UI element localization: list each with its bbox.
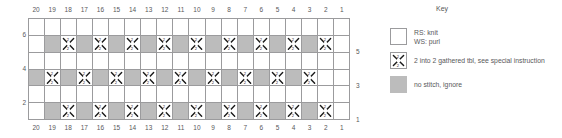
chart-cell-r1-c20 (29, 103, 45, 120)
column-number-bottom-15: 15 (108, 122, 124, 134)
row-number-left-6: 6 (4, 30, 26, 40)
chart-cell-r3-c9: 22 (206, 70, 222, 87)
chart-cell-r1-c18: 22 (61, 103, 77, 120)
column-number-top-18: 18 (60, 4, 76, 16)
chart-cell-r3-c4 (286, 70, 302, 87)
column-headers-bottom: 2019181716151413121110987654321 (28, 122, 350, 134)
column-number-bottom-20: 20 (28, 122, 44, 134)
column-number-top-11: 11 (173, 4, 189, 16)
chart-cell-r6-c3 (302, 19, 318, 36)
svg-text:2: 2 (163, 113, 166, 118)
row-number-left-2: 2 (4, 98, 26, 108)
column-number-top-2: 2 (318, 4, 334, 16)
stitch-chart: 2019181716151413121110987654321 642 2222… (0, 0, 380, 138)
chart-cell-r6-c15 (109, 19, 125, 36)
chart-cell-r4-c6 (254, 53, 270, 70)
svg-text:2: 2 (131, 113, 134, 118)
chart-cell-r2-c6 (254, 86, 270, 103)
svg-text:2: 2 (397, 63, 400, 68)
column-number-bottom-12: 12 (157, 122, 173, 134)
svg-text:2: 2 (259, 113, 262, 118)
chart-cell-r1-c2: 22 (318, 103, 334, 120)
column-number-bottom-14: 14 (125, 122, 141, 134)
chart-cell-r3-c20 (29, 70, 45, 87)
svg-text:2: 2 (259, 46, 262, 51)
chart-cell-r4-c2 (318, 53, 334, 70)
chart-cell-r3-c3: 22 (302, 70, 318, 87)
column-number-top-10: 10 (189, 4, 205, 16)
key-entry-nostitch: no stitch, ignore (390, 76, 462, 93)
key-entry-gathered: 22 2 into 2 gathered tbl, see special in… (390, 52, 545, 69)
chart-cell-r1-c9 (206, 103, 222, 120)
chart-cell-r6-c9 (206, 19, 222, 36)
svg-text:2: 2 (308, 71, 311, 76)
chart-cell-r4-c10 (189, 53, 205, 70)
chart-cell-r3-c19: 22 (45, 70, 61, 87)
svg-text:2: 2 (179, 80, 182, 85)
row-number-right-1: 1 (352, 115, 378, 125)
row-number-right-5: 5 (352, 47, 378, 57)
chart-cell-r4-c17 (77, 53, 93, 70)
chart-cell-r5-c2: 22 (318, 36, 334, 53)
column-headers-top: 2019181716151413121110987654321 (28, 4, 350, 16)
svg-text:2: 2 (259, 104, 262, 109)
chart-cell-r4-c1 (334, 53, 350, 70)
column-number-bottom-6: 6 (253, 122, 269, 134)
key-entry-gathered-label: 2 into 2 gathered tbl, see special instr… (414, 52, 545, 66)
key-legend: Key RS: knit WS: purl 22 2 into 2 gather… (382, 0, 562, 138)
svg-text:2: 2 (115, 71, 118, 76)
column-number-top-7: 7 (237, 4, 253, 16)
svg-text:2: 2 (179, 71, 182, 76)
chart-cell-r6-c13 (141, 19, 157, 36)
column-number-bottom-4: 4 (286, 122, 302, 134)
chart-cell-r1-c11 (173, 103, 189, 120)
column-number-bottom-18: 18 (60, 122, 76, 134)
column-number-bottom-5: 5 (269, 122, 285, 134)
chart-cell-r2-c2 (318, 86, 334, 103)
column-number-bottom-13: 13 (141, 122, 157, 134)
chart-cell-r1-c10: 22 (189, 103, 205, 120)
chart-cell-r2-c10 (189, 86, 205, 103)
chart-cell-r4-c14 (125, 53, 141, 70)
column-number-bottom-3: 3 (302, 122, 318, 134)
column-number-bottom-7: 7 (237, 122, 253, 134)
svg-text:2: 2 (131, 104, 134, 109)
svg-text:2: 2 (195, 104, 198, 109)
chart-cell-r4-c16 (93, 53, 109, 70)
chart-cell-r5-c10: 22 (189, 36, 205, 53)
chart-cell-r4-c5 (270, 53, 286, 70)
svg-text:2: 2 (195, 113, 198, 118)
svg-text:2: 2 (324, 37, 327, 42)
svg-text:2: 2 (67, 46, 70, 51)
chart-cell-r1-c14: 22 (125, 103, 141, 120)
chart-cell-r6-c6 (254, 19, 270, 36)
column-number-bottom-8: 8 (221, 122, 237, 134)
chart-cell-r2-c20 (29, 86, 45, 103)
chart-cell-r1-c3 (302, 103, 318, 120)
column-number-top-14: 14 (125, 4, 141, 16)
column-number-bottom-11: 11 (173, 122, 189, 134)
chart-cell-r4-c4 (286, 53, 302, 70)
chart-cell-r1-c12: 22 (157, 103, 173, 120)
chart-cell-r3-c11: 22 (173, 70, 189, 87)
chart-cell-r2-c12 (157, 86, 173, 103)
chart-cell-r3-c16 (93, 70, 109, 87)
svg-text:2: 2 (292, 46, 295, 51)
row-number-left-4: 4 (4, 64, 26, 74)
column-number-top-17: 17 (76, 4, 92, 16)
column-number-bottom-1: 1 (334, 122, 350, 134)
white-square-swatch-icon (390, 28, 407, 45)
chart-cell-r2-c14 (125, 86, 141, 103)
column-number-bottom-19: 19 (44, 122, 60, 134)
svg-text:2: 2 (227, 104, 230, 109)
chart-cell-r5-c5 (270, 36, 286, 53)
svg-text:2: 2 (292, 37, 295, 42)
chart-cell-r2-c11 (173, 86, 189, 103)
key-entry-knit: RS: knit WS: purl (390, 28, 440, 46)
chart-cell-r5-c15 (109, 36, 125, 53)
svg-text:2: 2 (67, 113, 70, 118)
gathered-stitch-symbol-icon: 22 (390, 52, 407, 69)
chart-cell-r3-c18 (61, 70, 77, 87)
chart-cell-r4-c19 (45, 53, 61, 70)
chart-cell-r2-c15 (109, 86, 125, 103)
